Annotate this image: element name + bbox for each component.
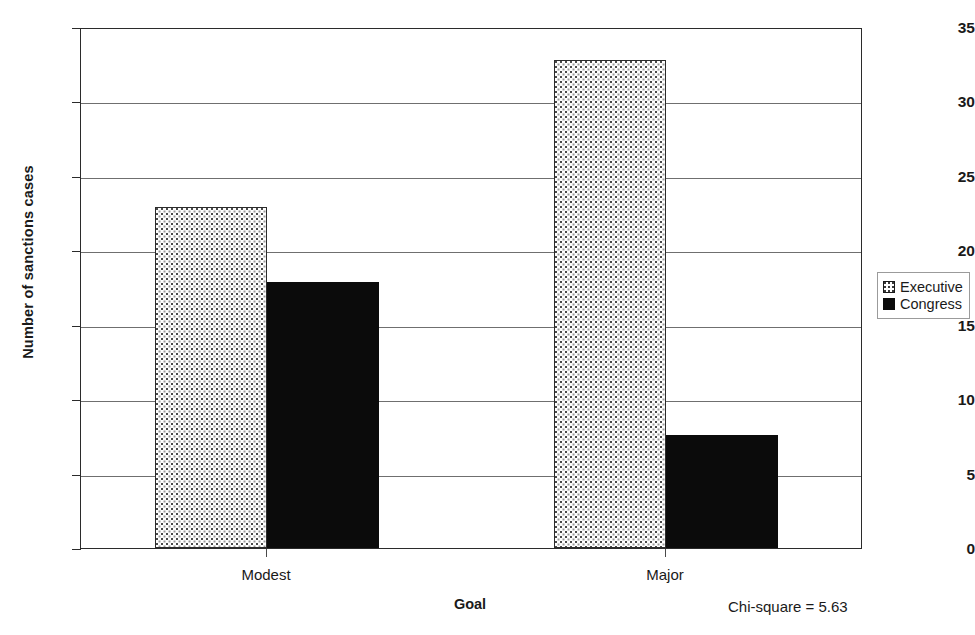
legend-label-executive: Executive <box>900 280 963 295</box>
x-axis-tick <box>665 549 666 557</box>
legend-item-congress: Congress <box>883 296 963 312</box>
bar-chart-figure: Number of sanctions cases 05101520253035… <box>0 0 975 635</box>
legend-label-congress: Congress <box>900 297 962 312</box>
x-axis-tick <box>266 549 267 557</box>
plot-area <box>80 28 862 549</box>
y-axis-tick-label: 30 <box>913 94 975 110</box>
y-axis-tick-label: 5 <box>913 467 975 483</box>
y-axis-tick <box>72 549 81 550</box>
legend: Executive Congress <box>877 272 970 319</box>
x-axis-title: Goal <box>370 596 570 612</box>
bar-congress-major <box>666 435 778 548</box>
gridline <box>81 178 861 179</box>
bar-executive-modest <box>155 207 267 548</box>
y-axis-tick-label: 0 <box>913 541 975 557</box>
y-axis-tick-label: 25 <box>913 169 975 185</box>
y-axis-tick-label: 10 <box>913 392 975 408</box>
x-axis-category-label: Modest <box>166 566 366 583</box>
bar-executive-major <box>554 60 666 548</box>
y-axis-tick-label: 35 <box>913 20 975 36</box>
bar-congress-modest <box>267 282 379 548</box>
x-axis-category-label: Major <box>565 566 765 583</box>
gridline <box>81 103 861 104</box>
y-axis-tick-label: 20 <box>913 243 975 259</box>
chi-square-annotation: Chi-square = 5.63 <box>728 598 848 615</box>
solid-black-square-swatch-icon <box>883 298 895 310</box>
legend-item-executive: Executive <box>883 279 963 295</box>
y-axis-tick-label: 15 <box>913 318 975 334</box>
y-axis-title: Number of sanctions cases <box>20 122 36 402</box>
stipple-square-swatch-icon <box>883 281 895 293</box>
